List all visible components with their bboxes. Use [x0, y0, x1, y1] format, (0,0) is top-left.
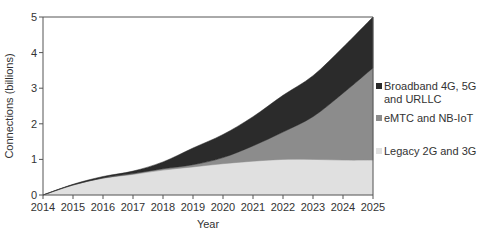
x-tick-label: 2016 — [91, 201, 115, 213]
x-tick-label: 2025 — [361, 201, 385, 213]
x-tick-label: 2019 — [181, 201, 205, 213]
x-tick-label: 2020 — [211, 201, 235, 213]
x-tick-label: 2018 — [151, 201, 175, 213]
legend-swatch-emtc — [376, 115, 382, 121]
y-axis-title: Connections (billions) — [3, 53, 15, 158]
y-tick-label: 4 — [31, 47, 37, 59]
legend-item-broadband: Broadband 4G, 5G and URLLC — [376, 80, 476, 106]
legend-label-broadband: Broadband 4G, 5G and URLLC — [384, 80, 476, 106]
legend-label-emtc: eMTC and NB-IoT — [384, 112, 473, 125]
legend-swatch-broadband — [376, 83, 382, 89]
y-tick-label: 2 — [31, 118, 37, 130]
legend-label-legacy: Legacy 2G and 3G — [384, 145, 476, 158]
legend-item-legacy: Legacy 2G and 3G — [376, 145, 476, 158]
y-tick-label: 3 — [31, 82, 37, 94]
x-tick-label: 2014 — [31, 201, 55, 213]
x-tick-label: 2023 — [301, 201, 325, 213]
y-tick-label: 5 — [31, 11, 37, 23]
x-tick-label: 2024 — [331, 201, 355, 213]
x-tick-label: 2021 — [241, 201, 265, 213]
legend-swatch-legacy — [376, 148, 382, 154]
x-tick-label: 2022 — [271, 201, 295, 213]
x-tick-label: 2017 — [121, 201, 145, 213]
legend-item-emtc: eMTC and NB-IoT — [376, 112, 473, 125]
y-tick-label: 0 — [31, 189, 37, 201]
x-axis-title: Year — [197, 218, 220, 230]
x-tick-label: 2015 — [61, 201, 85, 213]
y-tick-label: 1 — [31, 153, 37, 165]
chart-areas — [43, 17, 373, 195]
